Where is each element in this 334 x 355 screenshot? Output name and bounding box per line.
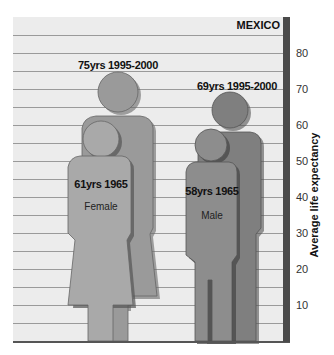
- y-tick-60: 60: [296, 119, 308, 131]
- x-axis-baseline: [13, 341, 290, 343]
- female-category-label: Female: [84, 201, 117, 212]
- y-axis-label: Average life expectancy: [308, 133, 320, 258]
- y-tick-40: 40: [296, 191, 308, 203]
- y-tick-80: 80: [296, 47, 308, 59]
- y-axis-bar: [283, 17, 290, 342]
- male-category-label: Male: [201, 210, 223, 221]
- male-1965-label: 58yrs 1965: [185, 185, 238, 197]
- y-tick-20: 20: [296, 263, 308, 275]
- chart-title: MEXICO: [200, 19, 280, 31]
- y-tick-10: 10: [296, 299, 308, 311]
- female-1965-label: 61yrs 1965: [74, 178, 127, 190]
- male-1995-2000-label: 69yrs 1995-2000: [197, 80, 277, 92]
- y-tick-50: 50: [296, 155, 308, 167]
- y-tick-30: 30: [296, 227, 308, 239]
- female-1995-2000-label: 75yrs 1995-2000: [78, 59, 158, 71]
- y-tick-70: 70: [296, 83, 308, 95]
